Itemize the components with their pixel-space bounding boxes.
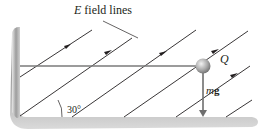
charged-ball xyxy=(196,59,211,74)
angle-arc xyxy=(58,100,62,117)
weight-label: mg xyxy=(206,84,219,96)
diagram-canvas xyxy=(0,0,262,136)
plate xyxy=(10,27,258,129)
label-pointer xyxy=(103,21,138,38)
angle-label: 30° xyxy=(67,104,81,115)
field-line-arrows xyxy=(64,44,238,78)
charge-label: Q xyxy=(220,52,229,67)
field-lines-label: E field lines xyxy=(74,3,132,18)
field-lines xyxy=(20,30,252,117)
